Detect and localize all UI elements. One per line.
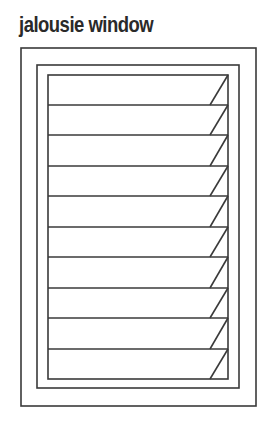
louver-slat: [48, 227, 228, 257]
louver-angle-line: [210, 196, 228, 227]
louver-slat: [48, 196, 228, 227]
louver-angle-line: [210, 75, 228, 105]
louver-angle-line: [210, 257, 228, 288]
louver-angle-line: [210, 288, 228, 318]
louver-slat: [210, 349, 228, 379]
louver-slat: [48, 288, 228, 318]
louver-slats: [48, 75, 228, 379]
louver-slat: [48, 257, 228, 288]
louver-angle-line: [210, 318, 228, 349]
louver-slat: [48, 135, 228, 166]
louver-angle-line: [210, 349, 228, 379]
louver-slat: [48, 75, 228, 105]
jalousie-window-diagram: [0, 0, 272, 425]
louver-angle-line: [210, 105, 228, 135]
louver-slat: [48, 318, 228, 349]
louver-slat: [48, 105, 228, 135]
louver-angle-line: [210, 166, 228, 196]
louver-slat: [48, 166, 228, 196]
louver-angle-line: [210, 227, 228, 257]
louver-angle-line: [210, 135, 228, 166]
